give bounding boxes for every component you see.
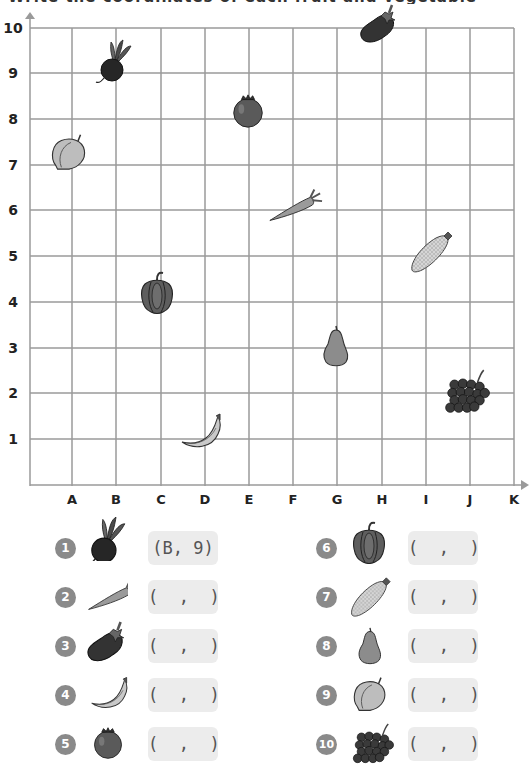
x-label-f: F [283, 492, 303, 507]
pomegranate-icon [234, 95, 263, 127]
y-label-3: 3 [1, 340, 25, 356]
y-label-4: 4 [1, 294, 25, 310]
pear-icon [324, 326, 348, 366]
corn-icon [346, 574, 392, 620]
eggplant-icon [361, 5, 395, 42]
question-number-8: 8 [316, 636, 337, 657]
question-number-4: 4 [55, 685, 76, 706]
x-label-g: G [327, 492, 347, 507]
question-number-1: 1 [55, 538, 76, 559]
grapes-icon [446, 370, 490, 412]
x-label-i: I [416, 492, 436, 507]
y-label-10: 10 [1, 20, 25, 36]
x-label-j: J [460, 492, 480, 507]
x-axis-arrow-head [521, 480, 529, 490]
question-number-9: 9 [316, 685, 337, 706]
y-label-5: 5 [1, 248, 25, 264]
banana-icon [182, 414, 220, 447]
beet-icon [82, 515, 128, 561]
y-axis-arrow-head [25, 12, 35, 19]
answer-box-10[interactable]: ( , ) [408, 727, 478, 761]
bell-pepper-icon [142, 273, 173, 314]
beet-icon [96, 40, 131, 82]
pomegranate-icon [90, 725, 136, 768]
banana-icon [88, 673, 134, 719]
answer-box-3[interactable]: ( , ) [148, 629, 218, 663]
y-label-6: 6 [1, 202, 25, 218]
answer-box-4[interactable]: ( , ) [148, 678, 218, 712]
x-label-a: A [62, 492, 82, 507]
carrot-icon [82, 577, 128, 623]
answer-box-7[interactable]: ( , ) [408, 580, 478, 614]
y-label-2: 2 [1, 385, 25, 401]
y-label-8: 8 [1, 111, 25, 127]
x-label-d: D [195, 492, 215, 507]
answer-box-5[interactable]: ( , ) [148, 727, 218, 761]
x-label-e: E [239, 492, 259, 507]
grapes-icon [350, 722, 396, 768]
coordinate-grid [0, 0, 531, 510]
question-number-7: 7 [316, 587, 337, 608]
corn-icon [412, 232, 452, 272]
answer-box-6[interactable]: ( , ) [408, 531, 478, 565]
answer-box-8[interactable]: ( , ) [408, 629, 478, 663]
eggplant-icon [84, 620, 130, 666]
answer-box-9[interactable]: ( , ) [408, 678, 478, 712]
question-number-3: 3 [55, 636, 76, 657]
question-number-5: 5 [55, 734, 76, 755]
peach-icon [350, 674, 396, 720]
pear-icon [352, 622, 398, 668]
x-label-h: H [372, 492, 392, 507]
y-label-7: 7 [1, 157, 25, 173]
y-label-1: 1 [1, 431, 25, 447]
y-label-9: 9 [1, 65, 25, 81]
question-number-10: 10 [316, 734, 337, 755]
question-number-6: 6 [316, 538, 337, 559]
x-label-b: B [106, 492, 126, 507]
x-label-c: C [151, 492, 171, 507]
bell-pepper-icon [349, 518, 395, 564]
answer-box-2[interactable]: ( , ) [148, 580, 218, 614]
carrot-icon [270, 190, 322, 221]
peach-icon [52, 135, 84, 169]
question-number-2: 2 [55, 587, 76, 608]
answer-box-1[interactable]: (B, 9) [148, 531, 218, 565]
x-label-k: K [504, 492, 524, 507]
